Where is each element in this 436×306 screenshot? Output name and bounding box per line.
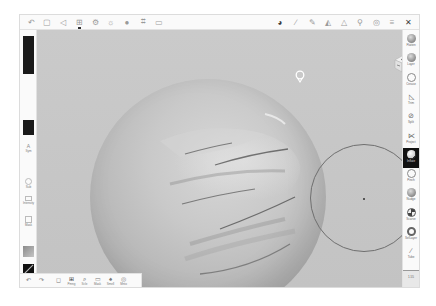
close-x-icon-glyph: ✕ bbox=[405, 18, 412, 27]
finger-creases bbox=[90, 79, 326, 288]
frame-icon-glyph: ⌗ bbox=[141, 17, 146, 27]
pen-icon[interactable]: ✎ bbox=[304, 15, 320, 29]
undo-button[interactable]: ↶ bbox=[23, 277, 34, 284]
frame-icon[interactable]: ⌗ bbox=[136, 15, 150, 29]
bottom-item-label: Smell bbox=[107, 283, 115, 286]
layers-grid-icon-glyph: ⊞ bbox=[76, 18, 83, 27]
share-icon-glyph: ◁ bbox=[60, 18, 66, 27]
nudge-tool-icon bbox=[407, 188, 416, 197]
close-x-icon[interactable]: ✕ bbox=[400, 15, 416, 29]
stroke-icon[interactable]: ◭ bbox=[320, 15, 336, 29]
symmetry-icon-glyph: ◎ bbox=[373, 18, 380, 27]
primary-color-swatch[interactable] bbox=[23, 36, 34, 74]
pivot-grid-button[interactable]: ⊞Pmng bbox=[66, 276, 77, 286]
tools-panel: 1.55 FlattenLayerCrease◺Trim⊘Split⋉Proje… bbox=[402, 30, 419, 288]
tool-nudge[interactable]: Nudge bbox=[403, 186, 419, 206]
tool-label: Nudge bbox=[403, 197, 419, 201]
mask-toggle-icon: ◻ bbox=[56, 277, 61, 284]
tool-label: Tube bbox=[403, 255, 419, 259]
layers-grid-icon[interactable]: ⊞ bbox=[72, 15, 86, 29]
smooth-button[interactable]: ♠Smell bbox=[105, 276, 116, 286]
tool-label: Inflate bbox=[403, 159, 419, 163]
mask-icon bbox=[25, 216, 32, 223]
settings-icon[interactable]: ⚙ bbox=[88, 15, 102, 29]
search-zoom-icon[interactable]: ⚲ bbox=[352, 15, 368, 29]
menu-icon-glyph: ≡ bbox=[390, 18, 395, 27]
mirror-button[interactable]: ◎Mnto bbox=[118, 276, 129, 286]
left-item-label: Mask bbox=[25, 223, 32, 227]
tool-project[interactable]: ⋉Project bbox=[403, 129, 419, 149]
subdivide-icon bbox=[25, 178, 32, 185]
mask-toggle-button[interactable]: ◻ bbox=[53, 277, 64, 284]
tool-label: Scarve bbox=[403, 217, 419, 221]
bottom-item-label: Mnto bbox=[120, 283, 127, 286]
bottom-item-label: Pmng bbox=[68, 283, 76, 286]
sphere-icon-glyph: ● bbox=[125, 18, 130, 27]
tool-flatten[interactable]: Flatten bbox=[403, 32, 419, 52]
tool-scarve[interactable]: Scarve bbox=[403, 206, 419, 226]
left-item-label: Intensity bbox=[23, 201, 34, 205]
scale-search-button[interactable]: ⌕Scle bbox=[79, 276, 90, 286]
tools-panel-footer: 1.55 bbox=[403, 270, 419, 288]
redo-button[interactable]: ↷ bbox=[36, 277, 47, 284]
trim-tool-icon: ◺ bbox=[403, 92, 419, 101]
split-tool-icon: ⊘ bbox=[403, 111, 419, 120]
tool-inflate[interactable]: Inflate bbox=[403, 148, 419, 168]
tool-label: Crease bbox=[403, 82, 419, 86]
left-item-label: Sym bbox=[26, 149, 32, 153]
sculpting-app: ↶▢◁⊞⚙☼●⌗▭ ◕∕✎◭△⚲◎≡✕ bbox=[19, 14, 420, 288]
3d-viewport[interactable] bbox=[37, 30, 402, 287]
top-toolbar: ↶▢◁⊞⚙☼●⌗▭ ◕∕✎◭△⚲◎≡✕ bbox=[20, 15, 419, 30]
color-wheel-icon[interactable]: ◕ bbox=[272, 15, 288, 29]
tool-crease[interactable]: Crease bbox=[403, 71, 419, 91]
tool-layer[interactable]: Layer bbox=[403, 51, 419, 71]
material-swatch-matcap[interactable] bbox=[23, 246, 34, 257]
pivot-pin-icon[interactable] bbox=[295, 70, 305, 83]
menu-icon[interactable]: ≡ bbox=[384, 15, 400, 29]
tool-tube[interactable]: ∕Tube bbox=[403, 244, 419, 264]
sun-icon[interactable]: ☼ bbox=[104, 15, 118, 29]
pen-icon-glyph: ✎ bbox=[309, 18, 316, 27]
camera-icon[interactable]: ▭ bbox=[152, 15, 166, 29]
tool-label: Trim bbox=[403, 101, 419, 105]
sculpt-mesh[interactable] bbox=[90, 79, 326, 288]
tool-sellayer[interactable]: SelLayer bbox=[403, 225, 419, 245]
tool-trim[interactable]: ◺Trim bbox=[403, 90, 419, 110]
camera-icon-glyph: ▭ bbox=[155, 18, 163, 27]
tool-label: Layer bbox=[403, 62, 419, 66]
share-icon[interactable]: ◁ bbox=[56, 15, 70, 29]
secondary-color-swatch[interactable] bbox=[23, 120, 34, 135]
left-item-sym[interactable]: A Sym bbox=[20, 143, 37, 153]
undo-arrow-icon-glyph: ↶ bbox=[28, 18, 35, 27]
tool-label: SelLayer bbox=[403, 236, 419, 240]
brush-icon-glyph: ∕ bbox=[295, 18, 296, 27]
undo-icon: ↶ bbox=[26, 277, 31, 284]
color-wheel-icon-glyph: ◕ bbox=[278, 18, 283, 27]
sellayer-tool-icon bbox=[407, 227, 416, 236]
falloff-icon-glyph: △ bbox=[341, 18, 347, 27]
bottom-item-label: Mask bbox=[94, 283, 101, 286]
undo-arrow-icon[interactable]: ↶ bbox=[24, 15, 38, 29]
sphere-icon[interactable]: ● bbox=[120, 15, 134, 29]
left-item-sub[interactable]: Sub bbox=[20, 178, 37, 189]
inflate-tool-icon bbox=[407, 150, 416, 159]
pinch-tool-icon bbox=[407, 169, 416, 178]
left-item-mask[interactable]: Mask bbox=[20, 216, 37, 227]
tool-split[interactable]: ⊘Split bbox=[403, 109, 419, 129]
brush-icon[interactable]: ∕ bbox=[288, 15, 304, 29]
tool-pinch[interactable]: Pinch bbox=[403, 167, 419, 187]
project-tool-icon: ⋉ bbox=[403, 131, 419, 140]
layer-tool-icon bbox=[407, 53, 416, 62]
mask-button[interactable]: ▭Mask bbox=[92, 276, 103, 286]
redo-icon: ↷ bbox=[39, 277, 44, 284]
left-item-label: Sub bbox=[26, 185, 31, 189]
left-item-intensity[interactable]: Intensity bbox=[20, 196, 37, 205]
symmetry-icon[interactable]: ◎ bbox=[368, 15, 384, 29]
files-icon[interactable]: ▢ bbox=[40, 15, 54, 29]
active-indicator bbox=[78, 27, 81, 29]
falloff-icon[interactable]: △ bbox=[336, 15, 352, 29]
tool-label: Pinch bbox=[403, 178, 419, 182]
scarve-tool-icon bbox=[407, 208, 416, 217]
top-toolbar-right: ◕∕✎◭△⚲◎≡✕ bbox=[272, 15, 416, 29]
bottom-toolbar: ↶↷◻⊞Pmng⌕Scle▭Mask♠Smell◎Mnto bbox=[20, 273, 142, 287]
